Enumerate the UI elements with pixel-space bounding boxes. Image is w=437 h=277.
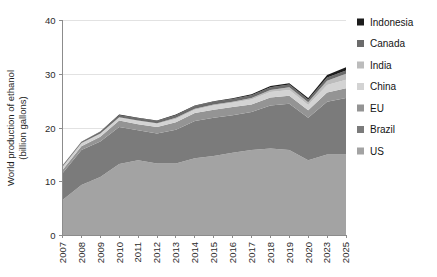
x-tick-label-2012: 2012 xyxy=(151,242,162,263)
x-tick-label-2013: 2013 xyxy=(170,242,181,263)
legend-label-us: US xyxy=(370,146,384,157)
y-tick-label-10: 10 xyxy=(45,176,56,187)
legend-swatch-indonesia xyxy=(357,19,364,26)
legend-label-india: India xyxy=(370,60,392,71)
chart-container: 010203040 200720082009201020112012201320… xyxy=(0,0,437,277)
y-axis-title-line1: World production of ethanol xyxy=(5,70,16,186)
x-tick-label-2009: 2009 xyxy=(95,242,106,263)
legend-swatch-india xyxy=(357,62,364,69)
x-tick-label-2018: 2018 xyxy=(265,242,276,263)
x-tick-label-2011: 2011 xyxy=(133,242,144,262)
legend-label-indonesia: Indonesia xyxy=(370,17,414,28)
legend-swatch-us xyxy=(357,148,364,155)
x-tick-label-2019: 2019 xyxy=(284,242,295,263)
y-tick-label-40: 40 xyxy=(45,15,56,26)
legend-label-canada: Canada xyxy=(370,38,405,49)
x-tick-label-2025: 2025 xyxy=(340,242,351,263)
legend-swatch-canada xyxy=(357,40,364,47)
x-tick-label-2017: 2017 xyxy=(246,242,257,263)
legend-swatch-brazil xyxy=(357,126,364,133)
x-tick-label-2007: 2007 xyxy=(57,242,68,263)
x-tick-label-2016: 2016 xyxy=(227,242,238,263)
legend-label-brazil: Brazil xyxy=(370,124,395,135)
x-tick-label-2020: 2020 xyxy=(303,242,314,263)
y-axis-title-line2: (billion gallons) xyxy=(17,96,28,159)
x-tick-label-2010: 2010 xyxy=(114,242,125,263)
legend-swatch-eu xyxy=(357,105,364,112)
y-tick-label-20: 20 xyxy=(45,123,56,134)
x-tick-label-2015: 2015 xyxy=(208,242,219,263)
x-tick-label-2008: 2008 xyxy=(76,242,87,263)
x-tick-label-2014: 2014 xyxy=(189,242,200,263)
legend-label-eu: EU xyxy=(370,103,384,114)
stacked-area-chart: 010203040 200720082009201020112012201320… xyxy=(0,0,437,277)
legend-swatch-china xyxy=(357,83,364,90)
legend-label-china: China xyxy=(370,81,397,92)
x-tick-label-2023: 2023 xyxy=(322,242,333,263)
y-tick-label-30: 30 xyxy=(45,69,56,80)
y-tick-label-0: 0 xyxy=(50,230,55,241)
